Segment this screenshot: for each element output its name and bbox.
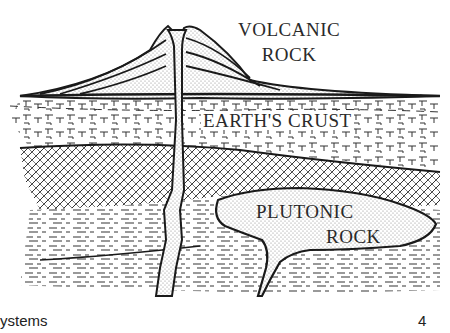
igneous-rock-diagram bbox=[0, 0, 450, 310]
label-volcanic-line2: ROCK bbox=[238, 45, 340, 64]
label-volcanic-line1: VOLCANIC bbox=[238, 20, 340, 39]
footer-caption: ystems bbox=[0, 312, 48, 329]
volcano-cone bbox=[20, 26, 440, 99]
label-plutonic-rock: PLUTONIC ROCK bbox=[256, 202, 381, 246]
page-number: 4 bbox=[418, 312, 426, 329]
label-plutonic-line1: PLUTONIC bbox=[256, 202, 381, 221]
label-volcanic-rock: VOLCANIC ROCK bbox=[238, 20, 340, 64]
label-plutonic-line2: ROCK bbox=[326, 227, 381, 246]
label-earths-crust: EARTH'S CRUST bbox=[201, 111, 354, 130]
